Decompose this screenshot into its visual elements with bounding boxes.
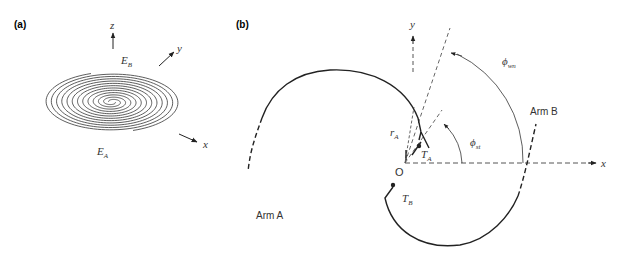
panel-a-label: (a) <box>14 19 26 30</box>
spiral-end-ea-label: EA <box>96 145 109 160</box>
arm-a-dashed-tail <box>248 118 262 172</box>
figure-canvas: (a) z y x EB EA (b) y <box>0 0 622 256</box>
x-axis-arrow-icon <box>179 134 197 142</box>
start-angle-label: ϕst <box>470 136 481 151</box>
wind-angle-arrow-icon <box>451 53 462 56</box>
wind-angle-ray <box>405 28 450 163</box>
axis-x-label: x <box>202 138 208 150</box>
axis-y-label-b: y <box>409 18 415 30</box>
y-axis-arrow-icon <box>159 52 174 66</box>
arm-a-label: Arm A <box>256 210 284 221</box>
start-angle-arrow-icon <box>444 124 449 129</box>
arm-a-curve <box>262 70 429 148</box>
terminal-b-dot-icon <box>391 183 395 187</box>
origin-label: O <box>395 166 404 178</box>
terminal-a-label: TA <box>421 148 432 163</box>
spiral-coil-icon <box>46 74 178 131</box>
spiral-end-eb-label: EB <box>120 54 133 69</box>
arm-b-label: Arm B <box>530 106 558 117</box>
panel-b-label: (b) <box>236 19 249 30</box>
axis-x-label-b: x <box>600 157 606 169</box>
wind-angle-label: ϕwn <box>502 55 516 70</box>
radius-label: rA <box>390 126 399 141</box>
panel-b: (b) y x O <box>236 18 606 246</box>
terminal-b-label: TB <box>402 192 413 207</box>
axis-z-label: z <box>109 19 115 31</box>
axis-y-label: y <box>176 42 182 54</box>
panel-a: (a) z y x EB EA <box>14 19 208 160</box>
